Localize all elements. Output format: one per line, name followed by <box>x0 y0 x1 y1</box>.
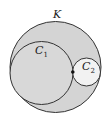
label-c2-sub: 2 <box>90 67 94 75</box>
tangent-point <box>71 70 75 74</box>
circles-diagram: K C1 C2 <box>0 0 108 124</box>
label-c1-sub: 1 <box>43 51 47 59</box>
label-k: K <box>52 8 62 21</box>
